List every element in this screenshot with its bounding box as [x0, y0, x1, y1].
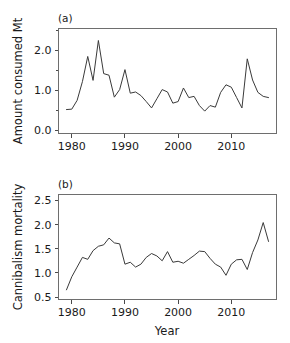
xtick-label: 2010	[217, 140, 245, 153]
panel-b-ylabel: Cannibalism mortality	[11, 183, 25, 310]
ytick-label: 1.0	[34, 267, 52, 280]
panel-b-plot: (b) 0.51.01.52.02.5 1980199020002010 Can…	[0, 172, 290, 343]
ytick-label: 0.5	[34, 291, 52, 304]
xtick-label: 2000	[164, 140, 192, 153]
panel-a-plot: (a) 0.01.02.0 1980199020002010 Amount co…	[0, 0, 290, 172]
panel-a-frame	[59, 29, 277, 134]
xtick-label: 1980	[58, 140, 86, 153]
panel-a: (a) 0.01.02.0 1980199020002010 Amount co…	[0, 0, 290, 172]
panel-b-tag: (b)	[58, 178, 73, 190]
panel-b: (b) 0.51.01.52.02.5 1980199020002010 Can…	[0, 172, 290, 343]
ytick-label: 1.0	[34, 84, 52, 97]
panel-b-xtick-marks	[72, 300, 232, 304]
panel-b-yaxis: 0.51.01.52.02.5	[34, 194, 59, 304]
panel-a-xaxis: 1980199020002010	[58, 134, 277, 153]
figure-container: (a) 0.01.02.0 1980199020002010 Amount co…	[0, 0, 290, 343]
panel-a-xtick-marks	[72, 134, 232, 138]
xtick-label: 2010	[217, 306, 245, 319]
panel-b-series-line	[66, 223, 268, 290]
panel-a-ytick-labels: 0.01.02.0	[34, 44, 52, 137]
panel-a-tag: (a)	[58, 12, 73, 24]
xtick-label: 1990	[111, 306, 139, 319]
ytick-label: 1.5	[34, 243, 52, 256]
panel-a-yaxis: 0.01.02.0	[34, 29, 59, 138]
panel-a-ytick-marks	[55, 30, 59, 130]
xtick-label: 2000	[164, 306, 192, 319]
panel-a-series-line	[66, 40, 268, 111]
ytick-label: 2.0	[34, 219, 52, 232]
panel-b-xtick-labels: 1980199020002010	[58, 306, 246, 319]
panel-b-frame	[59, 195, 277, 300]
xtick-label: 1990	[111, 140, 139, 153]
panel-a-ylabel: Amount consumed Mt	[11, 17, 25, 144]
ytick-label: 2.5	[34, 194, 52, 207]
ytick-label: 0.0	[34, 124, 52, 137]
panel-b-xlabel: Year	[154, 324, 180, 338]
panel-b-xaxis: 1980199020002010	[58, 300, 277, 319]
ytick-label: 2.0	[34, 44, 52, 57]
panel-b-ytick-labels: 0.51.01.52.02.5	[34, 194, 52, 304]
panel-b-ytick-marks	[55, 200, 59, 297]
xtick-label: 1980	[58, 306, 86, 319]
panel-a-xtick-labels: 1980199020002010	[58, 140, 246, 153]
